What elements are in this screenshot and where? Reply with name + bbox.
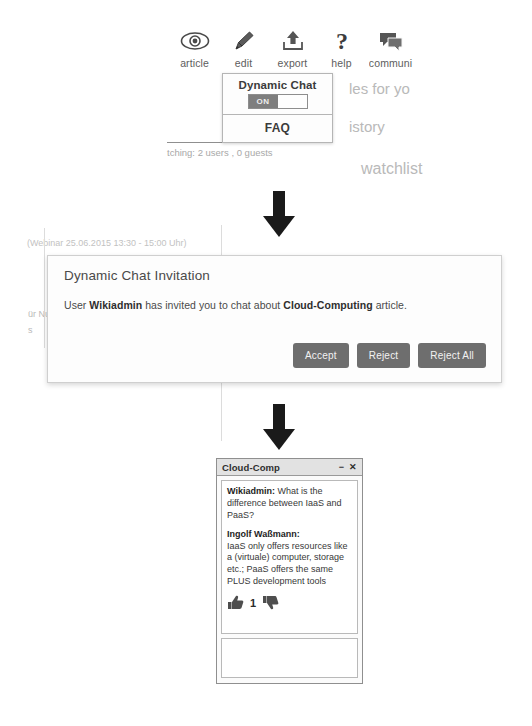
chat-window-title: Cloud-Comp (222, 462, 280, 473)
pencil-icon (231, 26, 257, 56)
dialog-message: User Wikiadmin has invited you to chat a… (48, 293, 501, 311)
dynamic-chat-dropdown: Dynamic Chat ON FAQ (222, 73, 333, 143)
wiki-toolbar: article edit export (170, 26, 415, 69)
chat-message: Wikiadmin: What is the difference betwee… (227, 486, 352, 522)
chat-message-text: IaaS only offers resources like a (virtu… (227, 541, 347, 587)
dialog-title: Dynamic Chat Invitation (48, 256, 501, 293)
dropdown-toggle-row: ON (223, 94, 332, 114)
toolbar-label-article: article (180, 57, 209, 69)
dynamic-chat-invitation-dialog: Dynamic Chat Invitation User Wikiadmin h… (47, 255, 502, 383)
minimize-icon[interactable]: − (339, 463, 344, 472)
dialog-message-prefix: User (64, 299, 89, 311)
dynamic-chat-toggle[interactable]: ON (248, 94, 308, 109)
down-arrow-icon (262, 191, 296, 239)
toolbar-item-export[interactable]: export (268, 26, 317, 69)
chat-message: Ingolf Waßmann: IaaS only offers resourc… (227, 529, 352, 588)
reject-button[interactable]: Reject (357, 343, 411, 368)
toggle-knob-label: ON (249, 95, 278, 108)
bg-fragment-watching-count: tching: 2 users , 0 guests (167, 147, 273, 158)
dropdown-title: Dynamic Chat (223, 74, 332, 94)
thumbs-down-icon[interactable] (262, 595, 279, 610)
background-page-edge-line (44, 228, 45, 348)
workflow-diagram: les for yo istory watchlist tching: 2 us… (0, 0, 532, 726)
bg-fragment-watchlist: watchlist (361, 160, 422, 178)
chat-message-author: Wikiadmin: (227, 486, 275, 496)
eye-icon (180, 26, 210, 56)
close-icon[interactable]: ✕ (349, 463, 357, 472)
chat-input-field[interactable] (221, 638, 358, 678)
toolbar-label-community: communi (369, 57, 413, 69)
bg-fragment-history: istory (349, 118, 385, 135)
toolbar-item-edit[interactable]: edit (219, 26, 268, 69)
bg-fragment-webinar-date: (Webinar 25.06.2015 13:30 - 15:00 Uhr) (27, 238, 186, 248)
background-column-line-bottom (221, 381, 222, 441)
toolbar-label-edit: edit (235, 57, 252, 69)
accept-button[interactable]: Accept (293, 343, 349, 368)
chat-message-list: Wikiadmin: What is the difference betwee… (221, 480, 358, 634)
chat-message-votes: 1 (227, 595, 352, 610)
dialog-actions: Accept Reject Reject All (293, 343, 486, 368)
svg-text:?: ? (336, 29, 348, 53)
thumbs-up-icon[interactable] (227, 595, 244, 610)
upload-icon (280, 26, 306, 56)
dialog-message-suffix: article. (373, 299, 407, 311)
dropdown-item-faq[interactable]: FAQ (223, 115, 332, 142)
dialog-message-username: Wikiadmin (89, 299, 142, 311)
flow-arrow-1 (262, 191, 296, 239)
dialog-message-middle: has invited you to chat about (142, 299, 283, 311)
dynamic-chat-window: Cloud-Comp − ✕ Wikiadmin: What is the di… (216, 458, 363, 684)
speech-bubbles-icon (377, 26, 405, 56)
toolbar-label-export: export (278, 57, 308, 69)
toolbar-item-help[interactable]: ? help (317, 26, 366, 69)
toolbar-label-help: help (331, 57, 351, 69)
reject-all-button[interactable]: Reject All (418, 343, 486, 368)
vote-count: 1 (250, 597, 256, 609)
chat-window-controls: − ✕ (339, 463, 357, 472)
bg-fragment-templates-for-you: les for yo (349, 80, 410, 97)
flow-arrow-2 (262, 404, 296, 452)
chat-window-titlebar[interactable]: Cloud-Comp − ✕ (217, 459, 362, 476)
toolbar-item-article[interactable]: article (170, 26, 219, 69)
down-arrow-icon (262, 404, 296, 452)
toolbar-item-community[interactable]: communi (366, 26, 415, 69)
bg-fragment-s: s (28, 325, 33, 335)
dialog-message-article: Cloud-Computing (283, 299, 372, 311)
chat-message-author: Ingolf Waßmann: (227, 529, 352, 541)
question-mark-icon: ? (331, 26, 353, 56)
